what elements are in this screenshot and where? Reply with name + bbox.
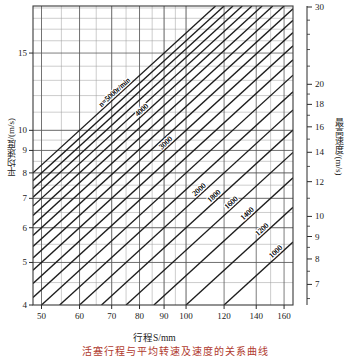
chart-root: n=5000r/minn=5000r/min400040003000300020…: [0, 0, 351, 359]
y-axis-right-tick-label: 8: [315, 254, 320, 264]
x-axis-tick-label: 160: [277, 311, 291, 321]
y-axis-left-title: 平均速度/(m/s): [4, 118, 17, 176]
x-axis: 5060708090100120140160: [37, 305, 291, 321]
y-axis-right-tick-label: 30: [315, 2, 325, 12]
plot-background: [33, 6, 293, 305]
nomogram-plot: n=5000r/minn=5000r/min400040003000300020…: [0, 0, 351, 359]
x-axis-tick-label: 140: [249, 311, 263, 321]
x-axis-title: 行程S/mm: [133, 330, 176, 344]
x-axis-tick-label: 90: [160, 311, 170, 321]
y-axis-right-tick-label: 14: [315, 147, 325, 157]
figure-caption: 活塞行程与平均转速及速度的关系曲线: [0, 345, 351, 359]
y-axis-left: 4567891015: [18, 48, 33, 310]
y-axis-left-tick-label: 10: [18, 125, 28, 135]
y-axis-left-tick-label: 7: [23, 193, 28, 203]
x-axis-tick-label: 80: [135, 311, 145, 321]
x-axis-tick-label: 50: [37, 311, 47, 321]
y-axis-left-tick-label: 15: [18, 48, 28, 58]
x-axis-tick-label: 100: [179, 311, 193, 321]
x-axis-tick-label: 60: [75, 311, 85, 321]
y-axis-right-tick-label: 20: [315, 79, 325, 89]
y-axis-left-tick-label: 6: [23, 223, 28, 233]
y-axis-right-tick-label: 7: [315, 279, 320, 289]
y-axis-right-tick-label: 10: [315, 211, 325, 221]
y-axis-left-tick-label: 4: [23, 300, 28, 310]
y-axis-right-tick-label: 18: [315, 99, 325, 109]
y-axis-right-title: 最高速度/(m/s): [333, 118, 346, 176]
x-axis-tick-label: 70: [107, 311, 117, 321]
y-axis-left-tick-label: 8: [23, 168, 28, 178]
y-axis-right-tick-label: 16: [315, 122, 325, 132]
x-axis-tick-label: 120: [217, 311, 231, 321]
y-axis-right: 78910121416182030: [307, 2, 325, 305]
y-axis-right-tick-label: 9: [315, 232, 320, 242]
y-axis-left-tick-label: 5: [23, 257, 28, 267]
y-axis-right-tick-label: 12: [315, 177, 324, 187]
chart-svg: n=5000r/minn=5000r/min400040003000300020…: [0, 0, 351, 359]
y-axis-left-tick-label: 9: [23, 145, 28, 155]
